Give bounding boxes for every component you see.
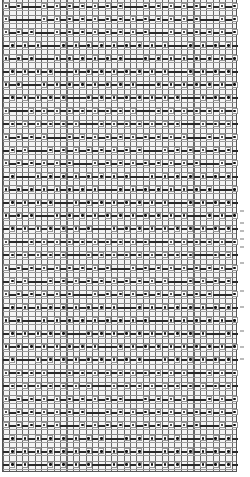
dash-stitch-icon bbox=[86, 412, 105, 414]
dash-stitch-icon bbox=[143, 150, 162, 152]
dash-stitch-icon bbox=[47, 372, 66, 374]
edge-mark bbox=[240, 358, 244, 360]
dash-stitch-icon bbox=[9, 19, 41, 21]
dash-stitch-icon bbox=[232, 281, 238, 283]
dash-stitch-icon bbox=[200, 425, 219, 427]
dash-stitch-icon bbox=[28, 281, 47, 283]
dash-stitch-icon bbox=[54, 71, 73, 73]
dash-stitch-icon bbox=[136, 110, 155, 112]
dot-stitch-icon bbox=[232, 215, 238, 218]
dash-stitch-icon bbox=[232, 228, 238, 230]
dash-stitch-icon bbox=[67, 254, 86, 256]
dash-stitch-icon bbox=[98, 346, 117, 348]
dash-stitch-icon bbox=[35, 215, 54, 217]
dash-stitch-icon bbox=[232, 45, 238, 47]
dash-stitch-icon bbox=[232, 333, 238, 335]
dash-stitch-icon bbox=[168, 71, 187, 73]
dash-stitch-icon bbox=[149, 32, 168, 34]
dash-stitch-icon bbox=[232, 307, 238, 309]
dash-stitch-icon bbox=[130, 176, 149, 178]
dash-stitch-icon bbox=[28, 150, 47, 152]
dash-stitch-icon bbox=[232, 71, 238, 73]
edge-mark bbox=[240, 330, 244, 332]
chart-row bbox=[3, 419, 236, 432]
dot-stitch-icon bbox=[232, 424, 238, 427]
dash-stitch-icon bbox=[168, 45, 187, 47]
chart-row bbox=[3, 223, 236, 236]
dot-stitch-icon bbox=[232, 372, 238, 375]
chart-row bbox=[3, 328, 236, 341]
dot-stitch-icon bbox=[232, 188, 238, 191]
dot-stitch-icon bbox=[232, 136, 238, 139]
dash-stitch-icon bbox=[105, 438, 124, 440]
dash-stitch-icon bbox=[187, 399, 206, 401]
chart-row bbox=[3, 354, 236, 367]
dot-stitch-icon bbox=[232, 31, 238, 34]
chart-row bbox=[3, 393, 236, 406]
dash-stitch-icon bbox=[232, 176, 238, 178]
dot-stitch-icon bbox=[232, 346, 238, 349]
chart-row bbox=[3, 157, 236, 170]
dash-stitch-icon bbox=[22, 6, 41, 8]
dash-stitch-icon bbox=[92, 385, 111, 387]
dash-stitch-icon bbox=[22, 320, 41, 322]
edge-mark bbox=[240, 230, 244, 232]
dash-stitch-icon bbox=[117, 307, 136, 309]
dash-stitch-icon bbox=[98, 189, 117, 191]
dash-stitch-icon bbox=[232, 150, 238, 152]
chart-row bbox=[3, 118, 236, 131]
dash-stitch-icon bbox=[213, 189, 232, 191]
dot-stitch-icon bbox=[232, 110, 238, 113]
dash-stitch-icon bbox=[200, 163, 219, 165]
chart-row bbox=[3, 406, 236, 419]
dash-stitch-icon bbox=[181, 438, 200, 440]
dot-stitch-icon bbox=[232, 267, 238, 270]
chart-row bbox=[3, 341, 236, 354]
chart-row bbox=[3, 262, 236, 275]
dash-stitch-icon bbox=[232, 202, 238, 204]
dash-stitch-icon bbox=[149, 320, 168, 322]
dash-stitch-icon bbox=[232, 123, 238, 125]
dash-stitch-icon bbox=[73, 163, 92, 165]
edge-mark bbox=[240, 346, 244, 348]
dash-stitch-icon bbox=[232, 464, 238, 466]
dot-stitch-icon bbox=[232, 84, 238, 87]
dot-stitch-icon bbox=[232, 293, 238, 296]
dash-stitch-icon bbox=[92, 464, 111, 466]
edge-mark bbox=[240, 306, 244, 308]
dash-stitch-icon bbox=[143, 359, 162, 361]
edge-mark bbox=[240, 210, 244, 212]
dash-stitch-icon bbox=[143, 451, 162, 453]
dash-stitch-icon bbox=[28, 464, 47, 466]
dash-stitch-icon bbox=[73, 294, 92, 296]
dash-stitch-icon bbox=[22, 84, 41, 86]
dash-stitch-icon bbox=[16, 176, 35, 178]
dash-stitch-icon bbox=[187, 372, 206, 374]
chart-row bbox=[3, 301, 236, 314]
dash-stitch-icon bbox=[232, 385, 238, 387]
dash-stitch-icon bbox=[168, 281, 187, 283]
dash-stitch-icon bbox=[47, 137, 66, 139]
dash-stitch-icon bbox=[9, 241, 28, 243]
chart-row bbox=[3, 52, 236, 65]
chart-row bbox=[3, 105, 236, 118]
dash-stitch-icon bbox=[79, 123, 98, 125]
dash-stitch-icon bbox=[67, 97, 86, 99]
chart-row bbox=[3, 197, 236, 210]
dash-stitch-icon bbox=[67, 333, 86, 335]
chart-row bbox=[3, 236, 236, 249]
dash-stitch-icon bbox=[35, 58, 54, 60]
chart-row bbox=[3, 459, 236, 472]
dash-stitch-icon bbox=[35, 32, 54, 34]
dot-stitch-icon bbox=[232, 162, 238, 165]
dot-stitch-icon bbox=[232, 411, 238, 414]
chart-row bbox=[3, 144, 236, 157]
chart-row bbox=[3, 26, 236, 39]
chart-row bbox=[3, 79, 236, 92]
dash-stitch-icon bbox=[232, 359, 238, 361]
dash-stitch-icon bbox=[187, 215, 206, 217]
dash-stitch-icon bbox=[168, 202, 187, 204]
dash-stitch-icon bbox=[92, 228, 111, 230]
edge-mark bbox=[240, 238, 244, 240]
chart-row bbox=[3, 314, 236, 327]
